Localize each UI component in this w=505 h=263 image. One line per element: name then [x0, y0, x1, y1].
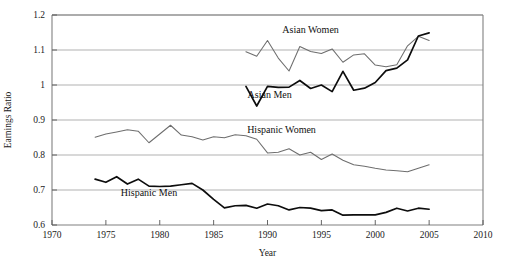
x-tick-label: 2005: [420, 230, 439, 240]
series-line: [246, 36, 429, 71]
x-tick-label: 1970: [43, 230, 62, 240]
y-tick-label: 0.8: [33, 150, 45, 160]
y-axis-title: Earnings Ratio: [3, 91, 13, 148]
x-axis-title: Year: [259, 248, 277, 258]
y-tick-label: 0.6: [33, 220, 45, 230]
x-tick-label: 2010: [474, 230, 493, 240]
earnings-ratio-line-chart: 197019751980198519901995200020052010 0.6…: [0, 0, 505, 263]
chart-svg: 197019751980198519901995200020052010 0.6…: [0, 0, 505, 263]
series-label: Hispanic Men: [121, 187, 177, 198]
y-tick-label: 1.1: [33, 45, 45, 55]
y-tick-label: 0.7: [33, 185, 45, 195]
series-label: Hispanic Women: [247, 124, 316, 135]
series-label: Asian Men: [248, 89, 292, 100]
x-tick-label: 1985: [204, 230, 223, 240]
x-axis-ticks: 197019751980198519901995200020052010: [43, 220, 493, 240]
x-tick-label: 1990: [258, 230, 277, 240]
y-tick-label: 0.9: [33, 115, 45, 125]
series-label: Asian Women: [282, 24, 339, 35]
y-tick-label: 1.2: [33, 10, 45, 20]
x-tick-label: 1995: [312, 230, 331, 240]
y-axis-ticks: 0.60.70.80.911.11.2: [33, 10, 57, 230]
y-tick-label: 1: [40, 80, 45, 90]
x-tick-label: 1975: [96, 230, 115, 240]
x-tick-label: 1980: [150, 230, 169, 240]
x-tick-label: 2000: [366, 230, 385, 240]
